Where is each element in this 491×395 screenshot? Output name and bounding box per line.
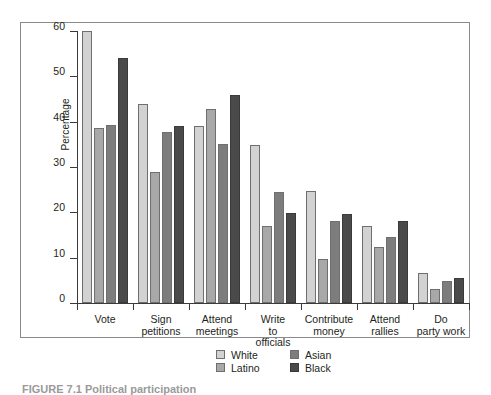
bar	[454, 278, 464, 303]
x-axis-label: Attendmeetings	[189, 314, 245, 337]
legend: White Asian Latino Black	[216, 348, 371, 374]
y-tick-label: 0	[25, 298, 65, 299]
bar	[306, 191, 316, 303]
bar	[418, 273, 428, 303]
bar	[218, 144, 228, 303]
bar-cluster	[189, 31, 245, 303]
bar	[430, 289, 440, 303]
bar	[262, 226, 272, 303]
x-axis-label-line: Sign	[133, 314, 189, 326]
x-axis-label-line: officials	[245, 337, 301, 349]
x-axis-label-line: meetings	[189, 326, 245, 338]
legend-swatch-white	[216, 350, 225, 359]
bar	[398, 221, 408, 303]
bars-area	[77, 31, 469, 303]
legend-swatch-latino	[216, 363, 225, 372]
bar	[318, 259, 328, 303]
bar	[138, 104, 148, 303]
bar	[206, 109, 216, 303]
bar	[342, 214, 352, 303]
bar	[162, 132, 172, 303]
bar	[250, 145, 260, 303]
x-axis-separator	[413, 303, 414, 310]
x-axis-label-line: Attend	[357, 314, 413, 326]
y-tick-label: 60	[25, 26, 65, 27]
legend-swatch-asian	[290, 350, 299, 359]
x-axis-label-line: money	[301, 326, 357, 338]
bar	[386, 237, 396, 303]
legend-label-black: Black	[305, 362, 331, 374]
legend-entry-white: White	[216, 349, 290, 361]
x-axis-separator	[133, 303, 134, 310]
x-axis-label-line: Contribute	[301, 314, 357, 326]
y-tick-label: 50	[25, 71, 65, 72]
x-axis-label: Writetoofficials	[245, 314, 301, 349]
x-axis-label-line: Do	[413, 314, 469, 326]
bar	[374, 247, 384, 303]
bar	[118, 58, 128, 303]
bar-cluster	[77, 31, 133, 303]
x-axis-label-line: party work	[413, 326, 469, 338]
bar	[230, 95, 240, 303]
y-tick-label: 30	[25, 162, 65, 163]
bar	[82, 31, 92, 303]
x-axis-line	[77, 303, 469, 304]
legend-entry-asian: Asian	[290, 349, 371, 361]
bar-cluster	[413, 31, 469, 303]
x-axis-label-line: Vote	[77, 314, 133, 326]
x-axis-separator	[301, 303, 302, 310]
bar	[94, 128, 104, 303]
bar	[174, 126, 184, 303]
y-tick-label: 10	[25, 253, 65, 254]
figure: Percentage 0102030405060 VoteSignpetitio…	[0, 0, 491, 395]
bar	[442, 281, 452, 303]
bar	[286, 213, 296, 303]
x-axis-label: Contributemoney	[301, 314, 357, 337]
x-axis-label-line: Attend	[189, 314, 245, 326]
bar	[330, 221, 340, 303]
bar	[362, 226, 372, 303]
plot-frame: Percentage 0102030405060 VoteSignpetitio…	[20, 22, 470, 338]
legend-label-white: White	[231, 349, 258, 361]
x-axis-label: Signpetitions	[133, 314, 189, 337]
x-axis-separator	[245, 303, 246, 310]
bar	[106, 125, 116, 303]
x-axis-label-line: rallies	[357, 326, 413, 338]
legend-swatch-black	[290, 363, 299, 372]
bar	[274, 192, 284, 303]
x-axis-separator	[357, 303, 358, 310]
legend-entry-latino: Latino	[216, 362, 290, 374]
x-axis-label-line: petitions	[133, 326, 189, 338]
bar-cluster	[357, 31, 413, 303]
bar-cluster	[245, 31, 301, 303]
x-axis-label: Doparty work	[413, 314, 469, 337]
x-axis-label-line: Write	[245, 314, 301, 326]
x-axis-separator	[469, 303, 470, 310]
bar	[194, 126, 204, 303]
y-tick-label: 20	[25, 207, 65, 208]
figure-caption: FIGURE 7.1 Political participation	[22, 383, 196, 395]
legend-entry-black: Black	[290, 362, 371, 374]
bar-cluster	[301, 31, 357, 303]
x-axis-label: Vote	[77, 314, 133, 326]
x-axis-separator	[189, 303, 190, 310]
y-tick-label: 40	[25, 117, 65, 118]
bar	[150, 172, 160, 303]
bar-cluster	[133, 31, 189, 303]
x-axis-separator	[77, 303, 78, 310]
x-axis-label: Attendrallies	[357, 314, 413, 337]
legend-label-latino: Latino	[231, 362, 260, 374]
legend-label-asian: Asian	[305, 349, 331, 361]
